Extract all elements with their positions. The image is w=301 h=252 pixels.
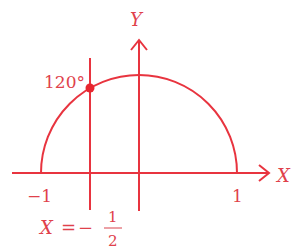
equation-minus: − (78, 217, 93, 238)
equation-lhs: X (38, 217, 54, 238)
angle-label: 120° (44, 72, 85, 92)
vertical-line-equation: X = − 1 2 (38, 208, 122, 250)
semicircle-diagram: Y X 120° −1 1 X = − 1 2 (0, 0, 301, 252)
y-axis-label: Y (130, 9, 144, 30)
fraction-denominator: 2 (108, 232, 118, 250)
tick-label-neg-one: −1 (27, 186, 52, 206)
equation-equals: = (61, 217, 76, 238)
fraction-numerator: 1 (108, 208, 118, 226)
tick-label-one: 1 (232, 186, 243, 206)
x-axis-label: X (275, 165, 291, 186)
point-120-degrees (86, 84, 95, 93)
